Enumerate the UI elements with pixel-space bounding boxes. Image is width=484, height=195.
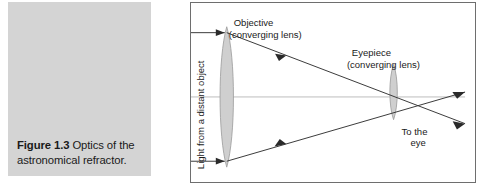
figure-container: Figure 1.3 Optics of the astronomical re… <box>0 0 484 195</box>
objective-lens <box>220 27 233 167</box>
objective-label-sub: (converging lens) <box>229 29 302 40</box>
optics-diagram-svg: Objective (converging lens) Eyepiece (co… <box>191 3 475 182</box>
refracted-ray-upper <box>227 33 465 124</box>
eyepiece-label-name: Eyepiece <box>352 47 391 58</box>
to-the-eye-label-line1: To the <box>402 126 428 137</box>
figure-caption-panel: Figure 1.3 Optics of the astronomical re… <box>8 2 151 176</box>
optics-diagram-panel: Objective (converging lens) Eyepiece (co… <box>190 2 476 183</box>
to-the-eye-label-line2: eye <box>410 137 425 148</box>
incoming-ray-bottom-arrowhead <box>216 158 225 165</box>
objective-label-name: Objective <box>234 17 274 28</box>
incoming-light-label: Light from a distant object <box>195 60 206 169</box>
eyepiece-label-sub: (converging lens) <box>347 59 420 70</box>
figure-caption-label: Figure 1.3 <box>17 139 69 151</box>
refracted-ray-lower <box>227 92 465 161</box>
eyepiece-lens <box>390 64 397 119</box>
incoming-ray-top-arrowhead <box>216 29 225 36</box>
figure-caption: Figure 1.3 Optics of the astronomical re… <box>17 138 145 168</box>
